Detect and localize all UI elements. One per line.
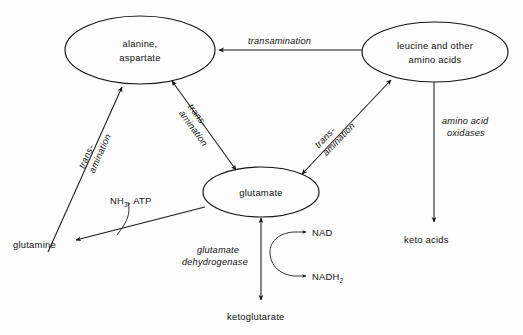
node-label-glutamine: glutamine <box>13 239 56 250</box>
nadh2-subscript: 2 <box>340 277 344 284</box>
nadh2-main: NADH <box>312 271 340 282</box>
node-label-leucine-line2: amino acids <box>409 54 462 65</box>
node-label-keto-acids: keto acids <box>404 234 449 245</box>
reagent-label-nh3-atp: NH3, ATP <box>110 195 151 208</box>
atp-tail: , ATP <box>128 195 151 206</box>
node-label-alanine-line1: alanine, <box>123 38 158 49</box>
edge-label-glutamate-dehydrogenase-2: dehydrogenase <box>182 257 248 267</box>
node-label-nadh2: NADH2 <box>312 271 344 284</box>
node-label-ketoglutarate: ketoglutarate <box>227 311 284 322</box>
node-alanine-aspartate <box>65 16 215 84</box>
pathway-svg-canvas: alanine, aspartate leucine and other ami… <box>0 0 523 335</box>
node-label-alanine-line2: aspartate <box>119 52 160 63</box>
node-label-glutamate: glutamate <box>239 187 282 198</box>
edge-label-transamination-top: transamination <box>248 36 311 46</box>
edge-label-amino-acid-oxidases-2: oxidases <box>447 128 485 138</box>
node-label-nad: NAD <box>312 227 333 238</box>
edge-label-amino-acid-oxidases-1: amino acid <box>442 116 489 126</box>
edge-label-group-transamination-right: trans- amination <box>313 113 357 158</box>
edge-transamination-middle <box>172 81 236 170</box>
metabolic-pathway-diagram: alanine, aspartate leucine and other ami… <box>0 0 523 335</box>
edge-label-group-transamination-left: trans- amination <box>77 128 113 175</box>
node-label-leucine-line1: leucine and other <box>397 40 473 51</box>
node-leucine-amino-acids <box>362 22 508 82</box>
edge-nadh2-curve-lower <box>270 252 294 276</box>
nh3-main: NH <box>110 195 124 206</box>
edge-nad-curve-upper <box>270 232 294 252</box>
edge-label-glutamate-dehydrogenase-1: glutamate <box>197 245 239 255</box>
edge-glutamate-to-glutamine <box>76 207 205 240</box>
edge-label-group-transamination-middle: trans- amination <box>177 102 218 148</box>
